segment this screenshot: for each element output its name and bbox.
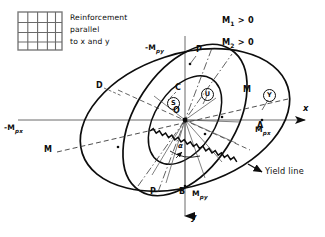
dot-left-mid — [117, 146, 120, 149]
point-p-top: P — [196, 46, 202, 54]
origin-ray-2 — [166, 120, 185, 183]
point-a: A — [257, 122, 263, 130]
y-axis-label: y — [191, 213, 197, 221]
marker-y: Y — [263, 89, 276, 102]
point-b: B — [179, 188, 185, 196]
condition-m2: M2 > 0 — [222, 38, 254, 49]
marker-u: U — [201, 88, 214, 101]
yield-line-label: Yield line — [265, 167, 304, 175]
origin-ray-7 — [185, 98, 216, 120]
point-p-bottom: P — [150, 188, 156, 196]
diagram-canvas — [0, 0, 325, 237]
leader-p-top — [190, 56, 196, 64]
dot-inner-low — [204, 133, 207, 136]
point-d: D — [96, 82, 103, 90]
origin-ray-6 — [185, 120, 236, 143]
point-m-left: M — [44, 146, 52, 154]
origin-dot — [183, 118, 188, 123]
yield-criterion-figure: Reinforcement parallel to x and y M1 > 0… — [0, 0, 325, 237]
x-axis-label: x — [303, 104, 309, 112]
marker-s: S — [167, 97, 180, 110]
yield-line-pointer — [248, 164, 262, 172]
dot-inner-right — [221, 116, 224, 119]
point-dot-group — [117, 63, 264, 188]
reinforcement-grid-swatch — [18, 12, 62, 50]
legend-line-3: to x and y — [70, 38, 110, 46]
legend-line-2: parallel — [70, 26, 99, 34]
legend-line-1: Reinforcement — [70, 14, 127, 22]
point-c: C — [175, 84, 181, 92]
angle-alpha-label: α — [178, 143, 183, 150]
dot-p-top — [189, 63, 192, 66]
neg-mpy-label: -Mpy — [145, 44, 164, 54]
point-m-right: M — [243, 86, 251, 94]
leader-d — [104, 88, 122, 96]
condition-m1: M1 > 0 — [222, 16, 254, 27]
neg-mpx-label: -Mpx — [4, 124, 23, 134]
origin-ray-4 — [185, 120, 205, 178]
mpy-label: Mpy — [192, 190, 208, 200]
